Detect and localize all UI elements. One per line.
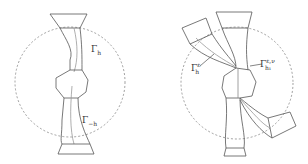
- upper-left-inner: [196, 38, 236, 67]
- label-gamma-h: Γh: [91, 45, 101, 56]
- left-panel: [15, 14, 125, 154]
- lower-inner: [71, 86, 74, 144]
- lower-tube-right: [240, 98, 244, 148]
- label-gamma-minus-h: Γ−h: [82, 116, 97, 127]
- upper-tube-left: [222, 28, 236, 68]
- lower-tube-left: [61, 98, 64, 144]
- lower-tube-left: [225, 98, 226, 148]
- lower-right-arm: [268, 112, 296, 138]
- central-blob: [56, 70, 88, 98]
- top-funnel: [50, 14, 87, 28]
- upper-tube-right: [247, 28, 249, 70]
- central-blob: [222, 68, 256, 98]
- dashed-circle: [181, 27, 293, 139]
- upper-tube-right: [80, 28, 82, 70]
- bottom-funnel: [58, 144, 94, 154]
- dashed-circle: [15, 27, 125, 137]
- top-funnel: [216, 12, 252, 28]
- right-panel: [181, 12, 296, 156]
- bottom-funnel: [224, 148, 246, 156]
- label-gamma-eps-h: Γεh: [191, 62, 199, 75]
- upper-left-arm-edge2: [212, 34, 236, 66]
- upper-left-arm: [182, 18, 212, 44]
- upper-tube-left: [60, 28, 71, 70]
- diagram-canvas: [0, 0, 308, 164]
- label-gamma-eps-nu-h1: Γε,νh₁: [260, 58, 271, 71]
- lower-right-arm-edge2: [240, 100, 272, 138]
- upper-inner: [74, 28, 77, 72]
